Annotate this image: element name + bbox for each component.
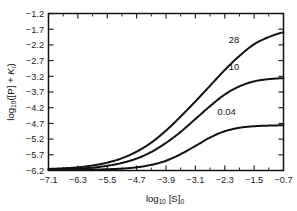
y-axis-title-close: ) bbox=[5, 63, 16, 66]
y-tick-label-0: −1.2 bbox=[26, 9, 44, 19]
y-tick-label-3: −2.7 bbox=[26, 56, 44, 66]
y-tick-label-10: −6.2 bbox=[26, 166, 44, 176]
y-tick-label-6: −4.2 bbox=[26, 103, 44, 113]
y-tick-label-2: −2.2 bbox=[26, 40, 44, 50]
x-tick-label-5: −3.1 bbox=[186, 175, 204, 185]
y-tick-label-4: −3.2 bbox=[26, 72, 44, 82]
y-tick-label-9: −5.7 bbox=[26, 150, 44, 160]
x-tick-label-1: −6.3 bbox=[69, 175, 87, 185]
y-tick-label-5: −3.7 bbox=[26, 87, 44, 97]
figure-container: −7.1−6.3−5.5−4.7−3.9−3.1−2.3−1.5−0.7 −1.… bbox=[0, 0, 297, 211]
y-axis-title-main: log bbox=[5, 108, 16, 121]
x-tick-label-0: −7.1 bbox=[39, 175, 57, 185]
curve-label-0.04: 0.04 bbox=[217, 106, 235, 117]
x-tick-label-3: −4.7 bbox=[128, 175, 146, 185]
x-tick-label-6: −2.3 bbox=[216, 175, 234, 185]
sigmoidal-dose-response-chart: −7.1−6.3−5.5−4.7−3.9−3.1−2.3−1.5−0.7 −1.… bbox=[0, 0, 297, 211]
x-axis-tick-labels: −7.1−6.3−5.5−4.7−3.9−3.1−2.3−1.5−0.7 bbox=[39, 175, 292, 185]
x-tick-label-8: −0.7 bbox=[274, 175, 292, 185]
x-axis-title-text: log10 [S]0 bbox=[146, 193, 185, 205]
x-axis-title-sub-0: 0 bbox=[180, 198, 184, 205]
y-axis-title: log10([P] + KI) bbox=[5, 63, 17, 120]
x-tick-label-2: −5.5 bbox=[98, 175, 116, 185]
y-tick-label-1: −1.7 bbox=[26, 25, 44, 35]
x-tick-label-7: −1.5 bbox=[245, 175, 263, 185]
x-tick-label-4: −3.9 bbox=[157, 175, 175, 185]
curve-label-28: 28 bbox=[229, 34, 239, 45]
x-axis-title: log10 [S]0 bbox=[146, 193, 185, 205]
y-axis-title-rest: ([P] + bbox=[5, 75, 16, 101]
y-axis-tick-labels: −1.2−1.7−2.2−2.7−3.2−3.7−4.2−4.7−5.2−5.7… bbox=[26, 9, 44, 176]
y-tick-label-7: −4.7 bbox=[26, 119, 44, 129]
x-axis-title-mid: [S] bbox=[166, 193, 180, 204]
y-axis-title-text: log10([P] + KI) bbox=[5, 63, 17, 120]
y-tick-label-8: −5.2 bbox=[26, 134, 44, 144]
x-axis-title-main: log bbox=[146, 193, 159, 204]
curve-label-10: 10 bbox=[229, 61, 239, 72]
